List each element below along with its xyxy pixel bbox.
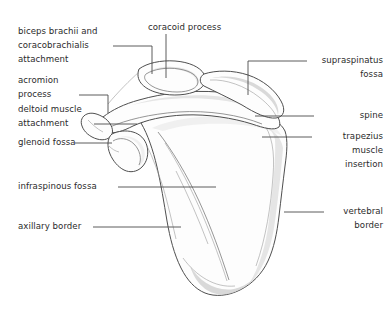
leader-acromion bbox=[79, 95, 108, 113]
label-coracoid-process: coracoid process bbox=[148, 21, 221, 35]
label-vertebral-border: vertebral border bbox=[311, 205, 383, 233]
label-deltoid-muscle-attachment: deltoid muscle attachment bbox=[18, 103, 82, 131]
label-infraspinous-fossa: infraspinous fossa bbox=[18, 180, 97, 194]
label-supraspinatus-fossa: supraspinatus fossa bbox=[311, 54, 383, 82]
label-glenoid-fossa: glenoid fossa bbox=[18, 136, 76, 150]
label-axillary-border: axillary border bbox=[18, 220, 81, 234]
superior-border bbox=[108, 72, 139, 104]
label-trapezius-muscle-insertion: trapezius muscle insertion bbox=[311, 130, 383, 171]
label-spine: spine bbox=[311, 109, 383, 123]
scapula-diagram-page: biceps brachii and coracobrachialis atta… bbox=[0, 0, 391, 325]
label-biceps-coracobrachialis-attachment: biceps brachii and coracobrachialis atta… bbox=[18, 25, 98, 66]
label-acromion-process: acromion process bbox=[18, 74, 58, 102]
scapula-bone-group bbox=[81, 61, 287, 296]
